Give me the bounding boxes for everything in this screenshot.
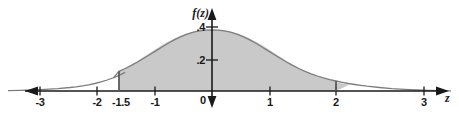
x-tick-label-1: 1 <box>267 96 273 108</box>
x-tick-label--3: -3 <box>35 96 44 108</box>
x-tick-label-2: 2 <box>333 96 339 108</box>
x-tick-label-3: 3 <box>421 96 427 108</box>
y-axis-label: f(z) <box>192 6 209 21</box>
y-axis-down-arrow-icon <box>208 96 217 108</box>
plot-canvas <box>0 0 459 115</box>
x-tick-label--1-5: -1.5 <box>112 96 130 108</box>
y-tick-label-0-2: .2 <box>196 54 205 66</box>
x-axis-left-arrow-icon <box>25 87 38 96</box>
x-tick-label--2: -2 <box>92 96 101 108</box>
y-tick-label-0-4: .4 <box>196 21 205 33</box>
normal-distribution-figure: f(z) .4 .2 0 -3 -2 -1.5 -1 1 2 3 z <box>0 0 459 115</box>
shaded-area-precise <box>119 30 336 91</box>
x-axis-label: z <box>445 91 450 106</box>
x-tick-label--1: -1 <box>150 96 159 108</box>
origin-label: 0 <box>200 94 206 106</box>
